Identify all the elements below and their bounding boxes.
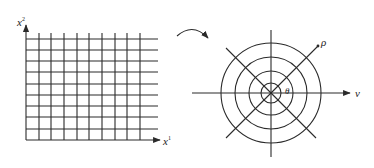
diagonal-line [226, 51, 313, 138]
vertical-grid-lines [39, 33, 140, 140]
x-axis-label: x1 [162, 135, 171, 147]
horizontal-grid-lines [26, 39, 158, 129]
polar-grid [192, 30, 350, 157]
coordinate-diagram: x2 x1 ρ θ ν [0, 0, 374, 168]
y-axis-label: x2 [16, 16, 25, 28]
theta-label: θ [285, 86, 290, 96]
nu-axis-label: ν [355, 87, 360, 99]
rho-point [317, 45, 320, 48]
rho-label: ρ [320, 36, 326, 48]
curved-arrow-icon [177, 29, 208, 38]
cartesian-grid [26, 25, 160, 140]
